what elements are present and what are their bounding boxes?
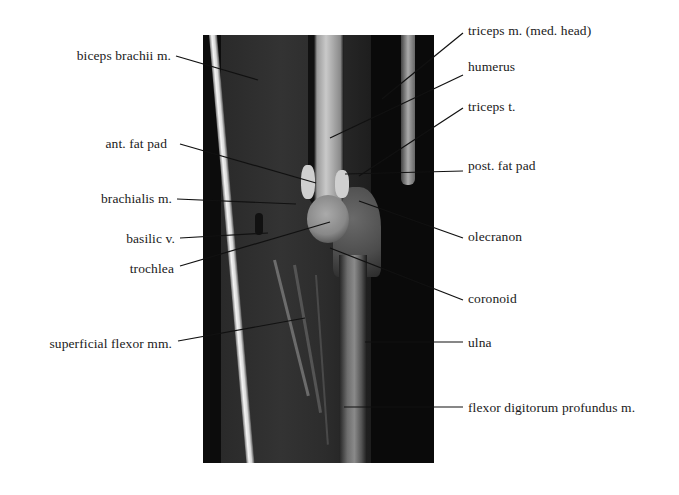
label-brachialis: brachialis m.	[101, 191, 172, 207]
label-basilic-vein: basilic v.	[126, 231, 175, 247]
label-humerus: humerus	[468, 59, 515, 75]
label-triceps-med-head: triceps m. (med. head)	[468, 23, 591, 39]
label-triceps-tendon: triceps t.	[468, 99, 516, 115]
ulna-shape	[339, 255, 367, 463]
ant-fat-pad-shape	[301, 165, 315, 199]
trochlea-shape	[307, 195, 349, 243]
basilic-vein-shape	[255, 213, 263, 235]
mri-image-elbow-sagittal	[203, 35, 434, 463]
label-ant-fat-pad: ant. fat pad	[105, 136, 167, 152]
label-ulna: ulna	[468, 335, 492, 351]
anatomy-figure: biceps brachii m. ant. fat pad brachiali…	[0, 0, 679, 495]
label-post-fat-pad: post. fat pad	[468, 158, 536, 174]
label-trochlea: trochlea	[130, 261, 174, 277]
triceps-fat-strip	[401, 35, 415, 185]
label-flexor-digitorum-profundus: flexor digitorum profundus m.	[468, 400, 635, 416]
label-biceps-brachii: biceps brachii m.	[77, 48, 171, 64]
label-superficial-flexor: superficial flexor mm.	[49, 336, 172, 352]
label-coronoid: coronoid	[468, 291, 517, 307]
post-fat-pad-shape	[335, 170, 349, 198]
label-olecranon: olecranon	[468, 229, 522, 245]
